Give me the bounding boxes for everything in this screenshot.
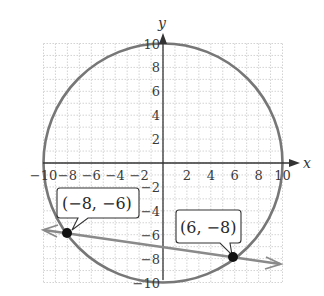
y-tick-label: −8 — [141, 252, 160, 267]
coordinate-graph: x y −10−8−6−4−2246810 108642−2−4−6−8−10 … — [0, 0, 324, 296]
callout-point-1: (−8, −6) — [57, 188, 139, 230]
x-axis-label: x — [303, 155, 311, 171]
x-tick-label: 8 — [254, 168, 262, 183]
y-tick-label: −10 — [133, 276, 160, 291]
x-tick-label: −4 — [106, 168, 125, 183]
y-tick-label: −2 — [141, 180, 160, 195]
x-tick-label: 10 — [274, 168, 291, 183]
x-tick-label: 2 — [183, 168, 191, 183]
x-tick-label: −8 — [58, 168, 77, 183]
y-tick-label: 6 — [152, 84, 160, 99]
intersection-point-1 — [62, 228, 72, 238]
y-tick-label: 4 — [152, 108, 160, 123]
x-tick-label: −10 — [30, 168, 57, 183]
intersection-point-2 — [228, 252, 238, 262]
y-tick-label: −4 — [141, 204, 160, 219]
callout-point-2: (6, −8) — [176, 210, 241, 255]
y-axis-arrow-icon — [159, 33, 167, 44]
y-tick-label: 10 — [143, 37, 160, 52]
y-tick-label: −6 — [141, 228, 160, 243]
x-tick-label: 4 — [207, 168, 215, 183]
y-tick-label: 8 — [152, 60, 160, 75]
point-2-label: (6, −8) — [180, 218, 236, 237]
y-tick-label: 2 — [152, 132, 160, 147]
x-tick-labels: −10−8−6−4−2246810 — [30, 168, 291, 183]
y-axis-label: y — [157, 15, 167, 31]
x-tick-label: −6 — [82, 168, 101, 183]
point-1-label: (−8, −6) — [62, 194, 132, 213]
x-axis-arrow-icon — [289, 159, 300, 167]
x-tick-label: 6 — [231, 168, 239, 183]
